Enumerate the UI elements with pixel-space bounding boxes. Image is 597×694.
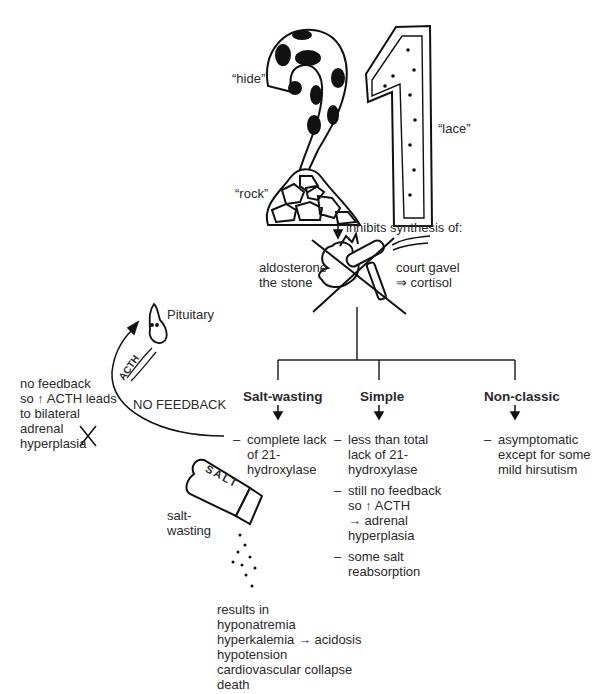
branch-list-non-classic: – asymptomatic except for some mild hirs… [484, 432, 591, 483]
inhibits-label: inhibits synthesis of: [346, 220, 462, 235]
list-item: – complete lack of 21- hydroxylase [233, 432, 326, 477]
branch-list-simple: – less than total lack of 21- hydroxylas… [334, 432, 441, 585]
no-feedback-label: NO FEEDBACK [133, 397, 226, 412]
feedback-note: no feedback so ↑ ACTH leads to bilateral… [20, 376, 117, 451]
diagram-artwork [0, 0, 597, 694]
list-item: – some salt reabsorption [334, 549, 441, 579]
pituitary-icon [150, 304, 167, 343]
list-item: – asymptomatic except for some mild hirs… [484, 432, 591, 477]
aldosterone-stone-label: aldosterone the stone [259, 260, 327, 290]
branch-title-non-classic: Non-classic [484, 389, 560, 404]
list-item: – less than total lack of 21- hydroxylas… [334, 432, 441, 477]
pituitary-label: Pituitary [167, 307, 214, 322]
numeral-two-hide-icon [267, 30, 347, 178]
classification-tree-lines [278, 307, 515, 380]
rock-pile-icon [267, 169, 360, 225]
hide-label: “hide” [232, 71, 265, 86]
lace-label: “lace” [438, 121, 471, 136]
branch-title-salt-wasting: Salt-wasting [243, 389, 323, 404]
results-list: results in hyponatremia hyperkalemia → a… [217, 602, 362, 692]
list-item: – still no feedback so ↑ ACTH → adrenal … [334, 483, 441, 543]
court-gavel-label: court gavel ⇒ cortisol [396, 260, 460, 290]
branch-list-salt-wasting: – complete lack of 21- hydroxylase [233, 432, 326, 483]
salt-wasting-caption: salt- wasting [167, 508, 211, 538]
branch-arrows [274, 405, 519, 419]
rock-label: “rock” [235, 186, 268, 201]
numeral-one-lace-icon [366, 26, 432, 226]
branch-title-simple: Simple [360, 389, 404, 404]
